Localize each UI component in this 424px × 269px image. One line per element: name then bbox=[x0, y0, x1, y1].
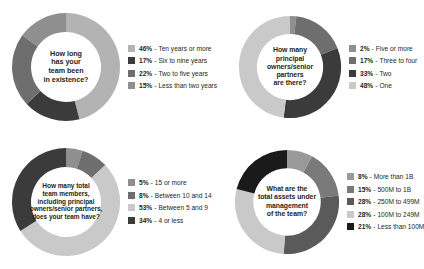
legend-row: 53%-Between 5 and 9 bbox=[128, 204, 212, 211]
legend-label: More than 1B bbox=[374, 173, 414, 180]
legend-row: 28%-100M to 249M bbox=[347, 211, 424, 218]
legend-percent: 48% bbox=[360, 82, 373, 89]
legend-label: Ten years or more bbox=[158, 45, 211, 52]
donut-chart-team-size: How many totalteam members,including pri… bbox=[10, 146, 122, 258]
donut-chart-principal-owners: How manyprincipalowners/seniorpartnersar… bbox=[237, 14, 343, 120]
legend-swatch-icon bbox=[128, 57, 135, 64]
legend-row: 28%-250M to 499M bbox=[347, 198, 424, 205]
legend-swatch-icon bbox=[128, 82, 135, 89]
legend-row: 46%-Ten years or more bbox=[128, 45, 217, 52]
legend-label: Between 10 and 14 bbox=[155, 192, 212, 199]
legend-swatch-icon bbox=[128, 217, 135, 224]
donut-segment bbox=[237, 149, 287, 193]
legend-row: 22%-Two to five years bbox=[128, 70, 217, 77]
legend-percent: 46% bbox=[139, 45, 152, 52]
legend-row: 48%-One bbox=[349, 82, 421, 89]
legend-label: 500M to 1B bbox=[377, 186, 411, 193]
chart-panel-assets-under-management: What are thetotal assets undermanagement… bbox=[211, 134, 423, 269]
legend-label: 15 or more bbox=[155, 179, 187, 186]
legend-percent: 15% bbox=[358, 186, 371, 193]
legend-percent: 33% bbox=[360, 70, 373, 77]
legend-label: Two bbox=[379, 70, 391, 77]
legend-label: Less than two years bbox=[158, 82, 217, 89]
legend-row: 34%-4 or less bbox=[128, 217, 212, 224]
legend-swatch-icon bbox=[128, 70, 135, 77]
donut-segment bbox=[284, 195, 339, 254]
legend-percent: 28% bbox=[358, 198, 371, 205]
legend-percent: 34% bbox=[139, 217, 152, 224]
legend-percent: 22% bbox=[139, 70, 152, 77]
legend-label: Six to nine years bbox=[158, 57, 207, 64]
legend-percent: 15% bbox=[139, 82, 152, 89]
legend-row: 8%-More than 1B bbox=[347, 173, 424, 180]
legend-swatch-icon bbox=[128, 45, 135, 52]
donut-chart-assets-under-management: What are thetotal assets undermanagement… bbox=[233, 148, 341, 256]
legend-swatch-icon bbox=[349, 57, 356, 64]
donut-svg-principal-owners bbox=[237, 14, 343, 120]
legend-row: 17%-Three to four bbox=[349, 57, 421, 64]
legend-label: Three to four bbox=[379, 57, 417, 64]
legend-label: 4 or less bbox=[158, 217, 183, 224]
donut-chart-team-tenure: How longhas yourteam beenin existence? bbox=[10, 11, 122, 123]
legend-row: 2%-Five or more bbox=[349, 45, 421, 52]
donut-segment bbox=[284, 48, 342, 118]
donut-svg-team-size bbox=[10, 146, 122, 258]
donut-svg-team-tenure bbox=[10, 11, 122, 123]
legend-percent: 28% bbox=[358, 211, 371, 218]
legend-swatch-icon bbox=[347, 198, 354, 205]
legend-swatch-icon bbox=[349, 45, 356, 52]
legend-percent: 53% bbox=[139, 204, 152, 211]
donut-segment bbox=[235, 189, 285, 254]
legend-swatch-icon bbox=[128, 204, 135, 211]
legend-swatch-icon bbox=[128, 179, 135, 186]
legend-label: 250M to 499M bbox=[377, 198, 419, 205]
legend-percent: 8% bbox=[139, 192, 149, 199]
legend-label: One bbox=[379, 82, 391, 89]
legend-label: Less than 100M bbox=[377, 223, 424, 230]
legend-row: 15%-Less than two years bbox=[128, 82, 217, 89]
legend-percent: 5% bbox=[139, 179, 149, 186]
legend-swatch-icon bbox=[347, 186, 354, 193]
legend-swatch-icon bbox=[349, 82, 356, 89]
legend-percent: 8% bbox=[358, 173, 368, 180]
legend-swatch-icon bbox=[347, 223, 354, 230]
donut-svg-assets-under-management bbox=[233, 148, 341, 256]
legend-label: Between 5 and 9 bbox=[158, 204, 208, 211]
donut-segment bbox=[294, 16, 337, 55]
donut-segment bbox=[239, 16, 290, 118]
legend-row: 5%-15 or more bbox=[128, 179, 212, 186]
legend-label: Two to five years bbox=[158, 70, 207, 77]
legend-row: 8%-Between 10 and 14 bbox=[128, 192, 212, 199]
chart-panel-team-size: How many totalteam members,including pri… bbox=[0, 134, 211, 269]
legend-row: 15%-500M to 1B bbox=[347, 186, 424, 193]
legend-percent: 17% bbox=[139, 57, 152, 64]
legend-swatch-icon bbox=[347, 211, 354, 218]
legend-row: 33%-Two bbox=[349, 70, 421, 77]
legend-swatch-icon bbox=[347, 173, 354, 180]
legend-percent: 21% bbox=[358, 223, 371, 230]
chart-panel-principal-owners: How manyprincipalowners/seniorpartnersar… bbox=[211, 0, 423, 134]
legend-principal-owners: 2%-Five or more17%-Three to four33%-Two4… bbox=[343, 45, 421, 90]
legend-team-size: 5%-15 or more8%-Between 10 and 1453%-Bet… bbox=[122, 179, 212, 224]
legend-row: 17%-Six to nine years bbox=[128, 57, 217, 64]
legend-swatch-icon bbox=[128, 192, 135, 199]
donut-segment bbox=[12, 35, 40, 104]
donut-segment bbox=[12, 148, 66, 231]
legend-row: 21%-Less than 100M bbox=[347, 223, 424, 230]
chart-panel-team-tenure: How longhas yourteam beenin existence? 4… bbox=[0, 0, 211, 134]
legend-team-tenure: 46%-Ten years or more17%-Six to nine yea… bbox=[122, 45, 217, 90]
legend-percent: 17% bbox=[360, 57, 373, 64]
legend-percent: 2% bbox=[360, 45, 370, 52]
legend-swatch-icon bbox=[349, 70, 356, 77]
legend-label: 100M to 249M bbox=[377, 211, 419, 218]
legend-assets-under-management: 8%-More than 1B15%-500M to 1B28%-250M to… bbox=[341, 173, 424, 230]
legend-label: Five or more bbox=[376, 45, 413, 52]
